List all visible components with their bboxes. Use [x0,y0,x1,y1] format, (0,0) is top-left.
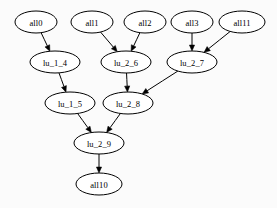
graph-node[interactable]: all0 [15,11,57,33]
graph-node[interactable]: lu_2_8 [103,92,153,114]
node-label: all1 [85,18,98,28]
graph-edge [101,32,118,52]
edge-line [209,31,230,48]
graph-edge [96,154,101,173]
node-label: all0 [29,18,42,28]
graph-node[interactable]: all1 [71,11,113,33]
graph-edge [107,113,121,132]
graph-diagram: all0all1all2all3all11lu_1_4lu_2_6lu_2_7l… [0,0,277,208]
edge-line [147,71,178,91]
node-label: lu_1_4 [43,58,68,68]
edge-line [41,33,47,46]
arrowhead-icon [142,89,148,94]
graph-node[interactable]: all11 [219,11,265,33]
arrowhead-icon [96,167,101,173]
arrowhead-icon [45,45,50,52]
graph-node[interactable]: lu_1_4 [30,51,80,73]
graph-node[interactable]: lu_2_6 [101,51,151,73]
arrowhead-icon [62,86,67,93]
graph-node[interactable]: lu_2_7 [167,51,217,73]
graph-edge [41,33,50,52]
edge-line [127,73,128,86]
graph-node[interactable]: all10 [76,173,122,195]
edge-line [101,32,114,47]
graph-node[interactable]: lu_1_5 [45,92,95,114]
node-layer: all0all1all2all3all11lu_1_4lu_2_6lu_2_7l… [15,11,265,195]
graph-node[interactable]: all3 [171,11,213,33]
node-label: lu_2_8 [116,99,140,109]
graph-node[interactable]: lu_2_9 [74,132,124,154]
edge-line [110,113,120,127]
node-label: all11 [233,18,250,28]
arrowhead-icon [86,126,92,132]
arrowhead-icon [131,45,136,52]
node-label: lu_2_7 [180,58,204,68]
edge-line [134,33,140,46]
node-label: all10 [90,180,108,190]
arrowhead-icon [125,86,130,92]
graph-edge [59,73,66,92]
graph-edge [131,33,140,52]
graph-node[interactable]: all2 [124,11,166,33]
edge-line [78,113,88,127]
node-label: lu_2_6 [114,58,138,68]
arrowhead-icon [189,45,194,51]
graph-canvas: all0all1all2all3all11lu_1_4lu_2_6lu_2_7l… [0,0,277,208]
graph-edge [204,31,230,52]
graph-edge [125,73,130,92]
node-label: all3 [185,18,198,28]
edge-line [59,73,64,87]
graph-edge [142,71,178,94]
graph-edge [78,113,92,132]
graph-edge [189,33,194,51]
node-label: lu_2_9 [87,139,111,149]
arrowhead-icon [107,126,113,132]
node-label: all2 [138,18,151,28]
node-label: lu_1_5 [58,99,82,109]
